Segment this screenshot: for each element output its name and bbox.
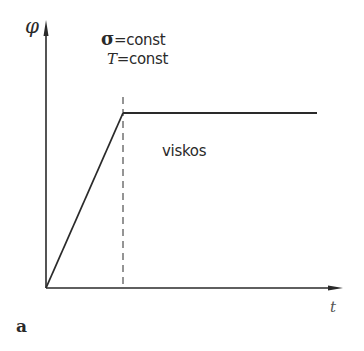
condition-text: =const (117, 50, 168, 68)
condition-symbol: T (107, 50, 117, 68)
condition-temperature: T=const (107, 50, 168, 68)
y-axis-arrow-icon (44, 20, 49, 36)
x-axis-arrow-icon (328, 286, 343, 291)
y-axis-label: φ (25, 14, 39, 38)
curve-ramp (46, 113, 123, 288)
condition-stress: σ=const (101, 28, 165, 49)
region-label: viskos (162, 142, 206, 160)
condition-text: =const (114, 31, 165, 49)
x-axis-label: t (330, 298, 336, 316)
figure-label: a (16, 316, 27, 336)
condition-symbol: σ (101, 28, 114, 49)
diagram-canvas (0, 0, 364, 351)
